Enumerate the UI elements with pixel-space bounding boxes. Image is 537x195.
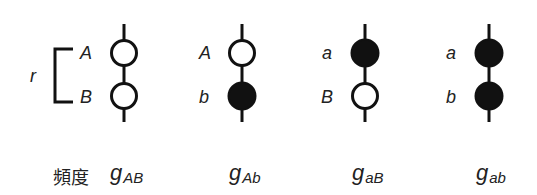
allele-label: b — [446, 88, 456, 106]
frequency-g-Ab: gAb — [229, 160, 261, 186]
chromosome-aB — [352, 24, 379, 122]
chromosome-ab — [476, 24, 503, 122]
allele-label: B — [321, 88, 333, 106]
linkage-bracket — [55, 49, 73, 102]
locus-A-open — [112, 41, 137, 66]
allele-label: a — [322, 44, 332, 62]
locus-b-filled — [476, 83, 503, 110]
allele-label: b — [199, 88, 209, 106]
chromosome-AB — [112, 24, 137, 122]
locus-a-filled — [352, 40, 379, 67]
allele-label: B — [80, 88, 92, 106]
frequency-g-AB: gAB — [110, 160, 143, 186]
frequency-g-aB: gaB — [352, 160, 384, 186]
locus-b-filled — [229, 83, 256, 110]
locus-a-filled — [476, 40, 503, 67]
locus-B-open — [353, 84, 378, 109]
frequency-title: 頻度 — [53, 163, 89, 189]
allele-label: a — [446, 44, 456, 62]
chromosome-Ab — [229, 24, 256, 122]
recombination-rate-label: r — [30, 67, 36, 85]
locus-A-open — [230, 41, 255, 66]
allele-label: A — [199, 44, 211, 62]
allele-label: A — [80, 44, 92, 62]
frequency-g-ab: gab — [476, 160, 506, 186]
locus-B-open — [112, 84, 137, 109]
